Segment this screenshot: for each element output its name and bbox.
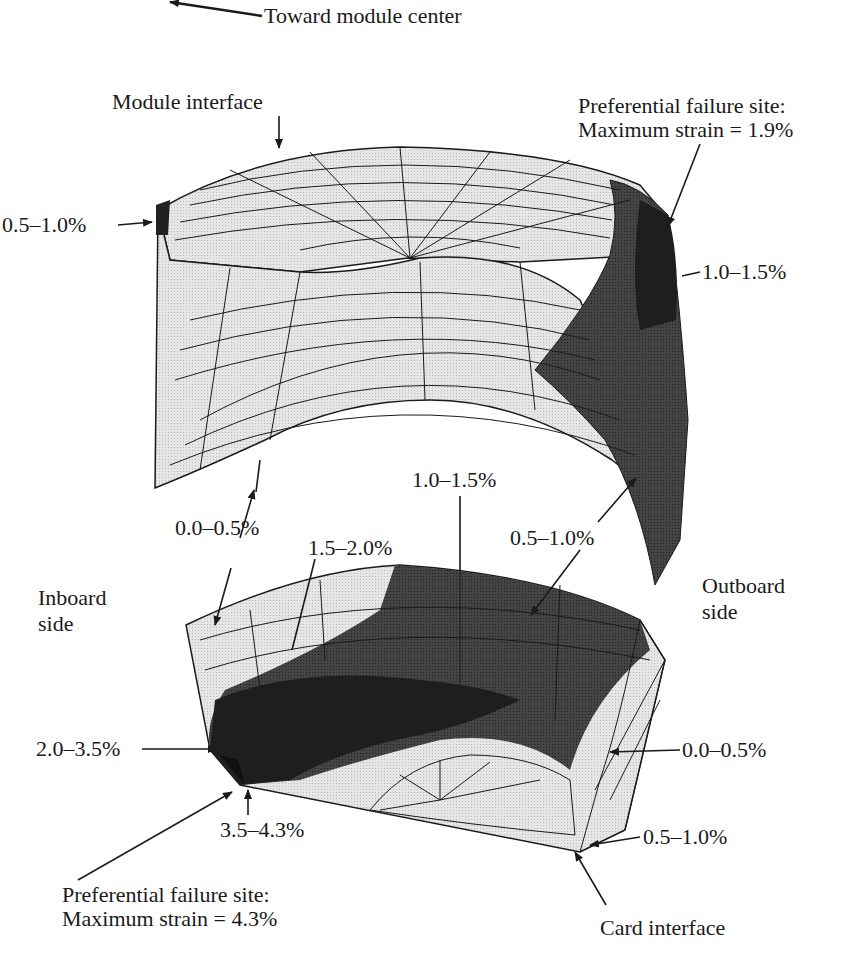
upper-left-range-label: 0.5–1.0% [2, 213, 86, 237]
lower-failure-site-title: Preferential failure site: [62, 883, 270, 907]
module-interface-label: Module interface [112, 90, 263, 114]
outboard-side-label-1: Outboard [702, 574, 785, 598]
outboard-side-label-2: side [702, 600, 737, 624]
lower-top-band-label: 1.0–1.5% [412, 468, 496, 492]
toward-center-arrow [170, 2, 262, 16]
upper-failure-site-strain: Maximum strain = 1.9% [578, 118, 793, 142]
upper-right-range-label: 1.0–1.5% [702, 260, 786, 284]
inboard-side-label-1: Inboard [38, 586, 106, 610]
card-interface-label: Card interface [600, 916, 725, 940]
corner-range-label: 2.0–3.5% [36, 737, 120, 761]
inboard-side-label-2: side [38, 612, 73, 636]
inner-face-range-label: 0.0–0.5% [175, 516, 259, 540]
toward-center-label: Toward module center [264, 4, 462, 28]
upper-failure-site-title: Preferential failure site: [578, 94, 786, 118]
lower-failure-site-strain: Maximum strain = 4.3% [62, 907, 277, 931]
right-corner-range-label: 0.5–1.0% [643, 825, 727, 849]
lower-mid-band-label: 1.5–2.0% [308, 536, 392, 560]
corner-max-range-label: 3.5–4.3% [220, 818, 304, 842]
right-face-range-label: 0.0–0.5% [682, 738, 766, 762]
upper-outer-range-arrow [598, 478, 636, 522]
card-interface-arrow [575, 852, 606, 905]
failure-site-lower-arrow [78, 792, 232, 880]
outer-face-range-label: 0.5–1.0% [510, 526, 594, 550]
upper-left-range-arrow [118, 222, 152, 225]
failure-site-upper-arrow [668, 144, 700, 226]
lower-part-mesh [186, 565, 665, 852]
